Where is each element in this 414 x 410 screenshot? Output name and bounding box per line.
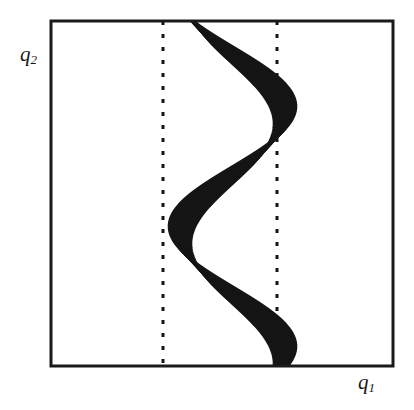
y-axis-label-subscript: 2 (31, 52, 38, 67)
y-axis-label-text: q (20, 42, 31, 66)
x-axis-label-subscript: 1 (369, 380, 376, 395)
x-axis-label: q1 (358, 372, 375, 393)
plot-svg (0, 0, 414, 410)
x-axis-label-text: q (358, 370, 369, 394)
y-axis-label: q2 (20, 44, 37, 65)
figure-canvas (0, 0, 414, 410)
